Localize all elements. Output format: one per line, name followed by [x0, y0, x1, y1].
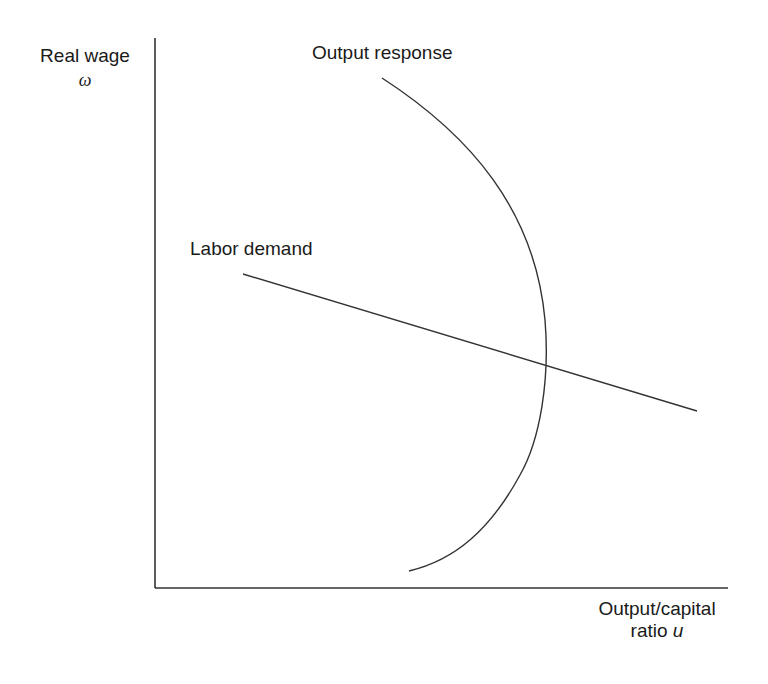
- x-axis-label: Output/capital ratio u: [582, 598, 732, 642]
- x-axis-title: Output/capital: [582, 598, 732, 620]
- labor-demand-label: Labor demand: [190, 238, 313, 260]
- y-axis-symbol: ω: [30, 69, 140, 91]
- x-axis-symbol: u: [673, 620, 684, 641]
- labor-demand-line: [243, 274, 697, 411]
- diagram-canvas: [0, 0, 768, 684]
- y-axis-label: Real wage ω: [30, 45, 140, 91]
- y-axis-title: Real wage: [30, 45, 140, 67]
- output-response-curve: [382, 78, 546, 571]
- output-response-label: Output response: [312, 42, 452, 64]
- x-axis-title-line2: ratio u: [582, 620, 732, 642]
